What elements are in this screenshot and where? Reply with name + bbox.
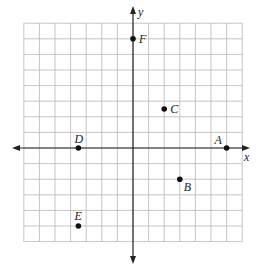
point-label: D [73,132,83,146]
point-label: C [170,102,179,116]
point-marker [76,145,82,151]
x-axis-label: x [243,150,250,164]
point-label: F [138,32,147,46]
point-marker [130,36,136,42]
point-label: E [73,209,82,223]
point-marker [76,223,82,229]
point-label: A [214,133,223,147]
x-axis-left-arrow-icon [12,145,20,151]
coordinate-plane: x y ABCDEF [0,0,268,270]
y-axis-label: y [137,5,144,19]
point-marker [161,106,167,112]
point-marker [224,145,230,151]
y-axis-down-arrow-icon [130,256,136,264]
point-marker [177,176,183,182]
data-points: ABCDEF [73,32,229,229]
y-axis-up-arrow-icon [130,6,136,14]
point-label: B [184,180,192,194]
